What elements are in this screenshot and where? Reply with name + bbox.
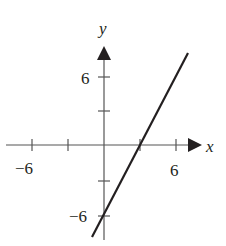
y-axis-label: y (97, 19, 107, 38)
x-axis-label: x (205, 137, 214, 156)
coordinate-plane: y x 6 −6 −6 6 (0, 0, 226, 246)
x-tick-label-6: 6 (170, 161, 179, 180)
y-tick-label-neg6: −6 (69, 207, 87, 226)
y-axis-arrow-icon (97, 46, 111, 60)
x-axis-arrow-icon (188, 138, 202, 152)
y-tick-label-6: 6 (81, 69, 90, 88)
x-tick-label-neg6: −6 (15, 159, 33, 178)
